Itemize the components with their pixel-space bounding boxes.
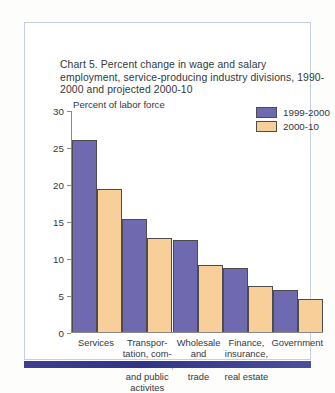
x-axis-line bbox=[71, 332, 323, 333]
bar-group bbox=[122, 111, 172, 332]
y-tick-label: 15 bbox=[53, 217, 64, 228]
bar-group bbox=[72, 111, 122, 332]
bar-series2 bbox=[147, 238, 172, 332]
bar-series1 bbox=[273, 290, 298, 332]
bar-series2 bbox=[248, 286, 273, 332]
footer-accent-bar bbox=[24, 361, 311, 368]
bar-series1 bbox=[72, 140, 97, 332]
chart-card: Chart 5. Percent change in wage and sala… bbox=[24, 22, 311, 360]
bar-series2 bbox=[97, 189, 122, 332]
y-tick-label: 20 bbox=[53, 180, 64, 191]
y-tick-label: 0 bbox=[59, 328, 64, 339]
y-tick-mark bbox=[67, 222, 71, 223]
y-tick-label: 30 bbox=[53, 106, 64, 117]
y-tick-mark bbox=[67, 259, 71, 260]
bar-series1 bbox=[223, 268, 248, 332]
y-tick-mark bbox=[67, 185, 71, 186]
y-tick-mark bbox=[67, 296, 71, 297]
y-tick-mark bbox=[67, 111, 71, 112]
bar-group bbox=[172, 111, 222, 332]
y-tick-label: 10 bbox=[53, 254, 64, 265]
y-tick-mark bbox=[67, 333, 71, 334]
bar-series1 bbox=[173, 240, 198, 332]
bar-groups bbox=[72, 111, 323, 332]
y-tick-mark bbox=[67, 148, 71, 149]
bar-group bbox=[273, 111, 323, 332]
y-axis-label: Percent of labor force bbox=[73, 99, 165, 110]
y-tick-label: 5 bbox=[59, 291, 64, 302]
bar-series2 bbox=[298, 299, 323, 332]
bar-series2 bbox=[198, 265, 223, 332]
bar-group bbox=[223, 111, 273, 332]
bar-series1 bbox=[122, 219, 147, 332]
y-tick-label: 25 bbox=[53, 143, 64, 154]
chart-title: Chart 5. Percent change in wage and sala… bbox=[60, 59, 328, 97]
plot-area: 051015202530 bbox=[71, 111, 323, 333]
